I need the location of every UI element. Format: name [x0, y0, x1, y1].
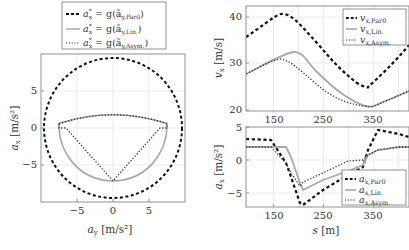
tick-top-y-30: 30 [229, 57, 242, 68]
tick-left-y-neg5: −5 [22, 159, 37, 170]
tick-bot-y-5: 5 [236, 122, 242, 133]
tick-top-x-250: 250 [313, 114, 332, 125]
accel-plot: 5 0 −5 150 250 350 s [m] ax [m/s²] ax,Pa… [212, 122, 409, 236]
tick-bot-y-neg5: −5 [227, 188, 242, 199]
tick-left-x-5: 5 [146, 205, 152, 216]
series-vx-lin [246, 52, 409, 107]
legend-left: a*x = g(ãy,Par0) a*x = g(ãy,Lin.) a*x = … [62, 2, 166, 50]
velocity-plot: 40 30 20 150 250 350 vx [m/s] vx,Par0 vx… [212, 6, 409, 125]
tick-top-y-40: 40 [229, 11, 242, 22]
ylabel-top: vx [m/s] [212, 38, 226, 78]
ylabel-left: ax [m/s²] [8, 106, 22, 151]
tick-top-y-20: 20 [229, 104, 242, 115]
legend-top: vx,Par0 vx,Lin. vx,Asym. [343, 9, 406, 47]
tick-bot-x-350: 350 [363, 210, 382, 221]
tick-left-x-neg5: −5 [70, 205, 85, 216]
ylabel-bottom: ax [m/s²] [212, 145, 226, 190]
tick-bot-y-0: 0 [236, 155, 242, 166]
friction-circle-plot: −5 0 5 5 0 −5 ay [m/s²] ax [m/s²] a*x = … [8, 2, 185, 237]
tick-left-y-5: 5 [31, 85, 37, 96]
tick-top-x-350: 350 [363, 114, 382, 125]
tick-left-x-0: 0 [110, 205, 116, 216]
figure: −5 0 5 5 0 −5 ay [m/s²] ax [m/s²] a*x = … [0, 0, 409, 250]
tick-left-y-0: 0 [31, 122, 37, 133]
xlabel-left: ay [m/s²] [88, 223, 133, 237]
tick-bot-x-250: 250 [313, 210, 332, 221]
xlabel-bottom: s [m] [313, 224, 340, 236]
tick-bot-x-150: 150 [264, 210, 283, 221]
legend-bottom: ax,Par0 ax,Lin. ax,Asym. [342, 170, 406, 207]
tick-top-x-150: 150 [264, 114, 283, 125]
